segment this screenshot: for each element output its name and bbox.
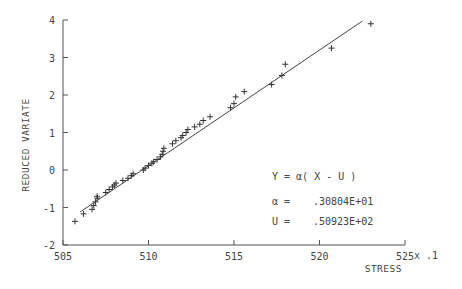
plus-marker-icon <box>81 211 87 217</box>
alpha-value: .30804E+01 <box>313 196 373 207</box>
plus-marker-icon <box>169 141 175 147</box>
alpha-label: α = <box>272 196 290 207</box>
plus-marker-icon <box>72 218 78 224</box>
y-tick-label: 3 <box>49 53 55 64</box>
x-tick-label: 510 <box>139 251 157 262</box>
plus-marker-icon <box>368 21 374 27</box>
plus-marker-icon <box>106 187 112 193</box>
y-tick-label: 0 <box>49 165 55 176</box>
plus-marker-icon <box>197 121 203 127</box>
plus-marker-icon <box>231 101 237 107</box>
plus-marker-icon <box>192 124 198 130</box>
equation-text: Y = α( X - U ) <box>272 171 356 182</box>
probability-plot: -2-101234505510515520525 REDUCED VARIATE… <box>0 0 462 289</box>
u-value: .50923E+02 <box>313 216 373 227</box>
equation-annotation: Y = α( X - U ) α = .30804E+01 U = .50923… <box>272 171 373 227</box>
y-tick-label: 2 <box>49 90 55 101</box>
y-tick-label: -1 <box>43 203 55 214</box>
x-axis-title: STRESS <box>365 263 402 274</box>
plus-marker-icon <box>241 89 247 95</box>
plus-marker-icon <box>200 118 206 124</box>
plus-marker-icon <box>328 45 334 51</box>
u-label: U = <box>272 216 290 227</box>
x-tick-label: 515 <box>225 251 243 262</box>
x-axis-scale-suffix: x .1 <box>414 250 438 261</box>
x-tick-label: 505 <box>54 251 72 262</box>
y-tick-label: 1 <box>49 128 55 139</box>
y-axis-title: REDUCED VARIATE <box>20 98 31 191</box>
plus-marker-icon <box>160 148 166 154</box>
plus-marker-icon <box>282 61 288 67</box>
fit-line <box>80 21 362 212</box>
plus-marker-icon <box>161 145 167 151</box>
y-tick-label: 4 <box>49 15 55 26</box>
data-points <box>72 21 374 225</box>
plus-marker-icon <box>173 138 179 144</box>
x-tick-label: 525 <box>396 251 414 262</box>
x-tick-label: 520 <box>310 251 328 262</box>
plus-marker-icon <box>207 114 213 120</box>
plus-marker-icon <box>233 94 239 100</box>
regression-line <box>80 21 362 212</box>
y-tick-label: -2 <box>43 240 55 251</box>
